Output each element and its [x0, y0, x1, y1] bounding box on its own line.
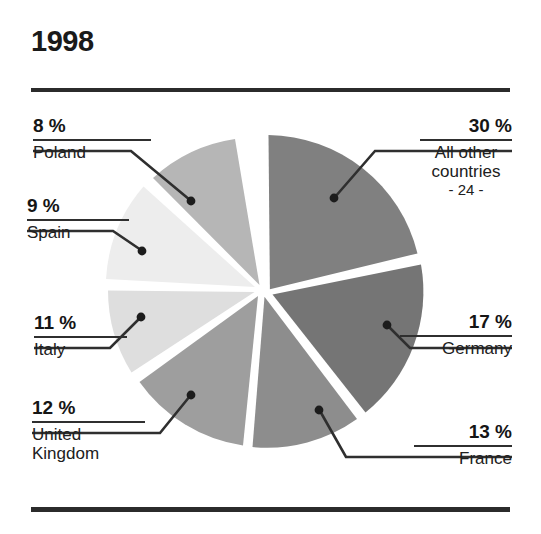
- label-france-underline: [414, 445, 512, 447]
- label-all-other-countries-percent: 30 %: [420, 116, 512, 136]
- label-france: 13 % France: [414, 422, 512, 468]
- label-united-kingdom-name-line1: United: [32, 425, 145, 444]
- label-poland-percent: 8 %: [33, 116, 151, 136]
- label-germany-underline: [400, 335, 512, 337]
- label-all-other-countries-underline: [420, 139, 512, 141]
- pie-chart-page: 1998: [0, 0, 541, 534]
- label-germany: 17 % Germany: [400, 312, 512, 358]
- label-germany-name: Germany: [400, 339, 512, 358]
- label-all-other-countries-name-line1: All other: [420, 143, 512, 162]
- label-united-kingdom: 12 % United Kingdom: [32, 398, 145, 463]
- label-poland-name: Poland: [33, 143, 151, 162]
- label-spain-underline: [27, 219, 129, 221]
- label-france-percent: 13 %: [414, 422, 512, 442]
- label-united-kingdom-percent: 12 %: [32, 398, 145, 418]
- label-italy-underline: [34, 336, 127, 338]
- label-poland: 8 % Poland: [33, 116, 151, 162]
- label-spain-name: Spain: [27, 223, 129, 242]
- label-germany-percent: 17 %: [400, 312, 512, 332]
- label-poland-underline: [33, 139, 151, 141]
- label-france-name: France: [414, 449, 512, 468]
- label-united-kingdom-underline: [32, 421, 145, 423]
- label-united-kingdom-name-line2: Kingdom: [32, 444, 145, 463]
- pie-slice-all-other-countries: [269, 135, 418, 289]
- label-spain: 9 % Spain: [27, 196, 129, 242]
- divider-bottom: [31, 507, 510, 512]
- label-all-other-countries: 30 % All other countries - 24 -: [420, 116, 512, 198]
- label-all-other-countries-name-line2: countries: [420, 162, 512, 181]
- label-italy-name: Italy: [34, 340, 127, 359]
- label-italy: 11 % Italy: [34, 313, 127, 359]
- label-all-other-countries-sub: - 24 -: [420, 181, 512, 198]
- label-spain-percent: 9 %: [27, 196, 129, 216]
- label-italy-percent: 11 %: [34, 313, 127, 333]
